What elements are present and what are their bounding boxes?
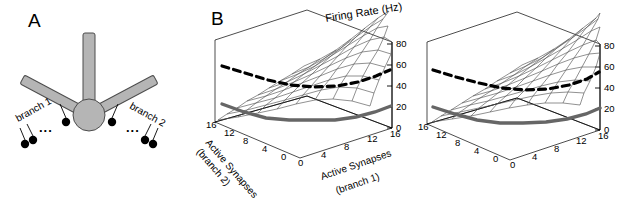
right-y-label-4: 4 [474, 145, 479, 156]
right-z-label-40: 40 [604, 82, 615, 93]
left-plot-y-axis: 16 12 8 4 0 Active Synapses (branch 2) [194, 119, 286, 200]
right-plot-z-axis: 0 20 40 60 80 [595, 40, 615, 135]
leader-b1-3 [20, 128, 25, 140]
left-x-label-4: 4 [321, 149, 326, 160]
right-plot-x-axis: 0 4 8 12 16 [510, 130, 609, 170]
panel-a-letter: A [28, 10, 41, 31]
surface-plot-fitted: 0 20 40 60 80 [418, 12, 615, 170]
left-z-label-20: 20 [396, 101, 407, 112]
right-x-label-12: 12 [576, 135, 587, 146]
left-y-label-16: 16 [206, 119, 217, 130]
right-y-label-12: 12 [436, 129, 447, 140]
right-z-label-60: 60 [604, 61, 615, 72]
panel-a: A ... branch 1 ... branch 2 [14, 10, 168, 148]
right-z-label-20: 20 [604, 103, 615, 114]
branch-2-ellipsis: ... [126, 120, 140, 135]
synapse-b1-2 [29, 136, 37, 144]
apical-trunk [83, 33, 95, 103]
left-plot-title: Firing Rate (Hz) [324, 0, 403, 24]
synapse-b2-3 [149, 140, 157, 148]
right-x-label-4: 4 [532, 151, 537, 162]
left-plot-floor [215, 96, 392, 158]
left-x-label-8: 8 [344, 141, 349, 152]
left-y-label-8: 8 [243, 135, 248, 146]
right-x-label-16: 16 [598, 130, 609, 141]
left-surface-mesh [218, 11, 392, 120]
left-y-label-4: 4 [262, 143, 267, 154]
left-x-label-0: 0 [298, 157, 303, 168]
left-x-label-12: 12 [367, 133, 378, 144]
right-y-label-8: 8 [455, 137, 460, 148]
right-x-label-8: 8 [554, 143, 559, 154]
figure-root: A ... branch 1 ... branch 2 B [0, 0, 622, 204]
leader-b2-3 [153, 128, 158, 140]
synapse-b1-3 [21, 140, 29, 148]
left-z-label-40: 40 [396, 80, 407, 91]
right-y-label-0: 0 [493, 153, 498, 164]
right-y-label-16: 16 [418, 121, 429, 132]
right-z-label-80: 80 [604, 40, 615, 51]
branch-1-ellipsis: ... [39, 120, 53, 135]
synapse-b1-1 [62, 118, 70, 126]
left-y-label-12: 12 [224, 127, 235, 138]
left-solid-trace [222, 104, 391, 120]
soma [73, 99, 105, 131]
leader-b1-2 [27, 124, 33, 136]
left-z-label-80: 80 [396, 38, 407, 49]
left-plot-z-axis: 0 20 40 60 80 [387, 38, 407, 133]
right-x-label-0: 0 [510, 159, 515, 170]
left-y-label-0: 0 [281, 151, 286, 162]
synapse-b2-2 [141, 136, 149, 144]
left-x-label-16: 16 [390, 128, 401, 139]
left-plot-x-axis: 0 4 8 12 16 Active Synapses (branch 1) [298, 128, 401, 196]
right-plot-y-axis: 16 12 8 4 0 [418, 121, 498, 164]
left-z-label-60: 60 [396, 59, 407, 70]
right-surface-mesh [432, 13, 600, 122]
panel-b-letter: B [211, 8, 224, 29]
leader-b2-2 [145, 124, 151, 136]
synapse-b2-1 [108, 118, 116, 126]
left-x-axis-title-1: Active Synapses [319, 147, 392, 181]
figure-canvas: A ... branch 1 ... branch 2 B [0, 0, 622, 204]
surface-plot-simulated: 0 20 40 60 80 [194, 0, 406, 200]
